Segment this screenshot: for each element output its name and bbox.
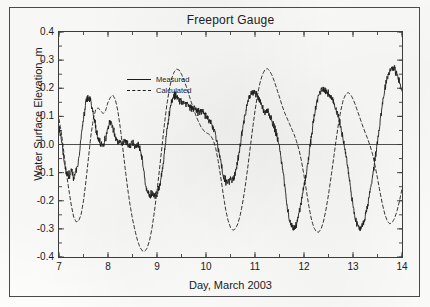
plot-area: Measured Calculated — [58, 31, 403, 258]
x-tick-label: 10 — [191, 261, 221, 272]
y-tick-label: 0.2 — [24, 82, 54, 93]
y-axis-tick-labels: 0.40.30.20.10.0-0.1-0.2-0.3-0.4 — [24, 31, 54, 258]
y-tick-label: 0.0 — [24, 139, 54, 150]
x-tick-label: 8 — [93, 261, 123, 272]
x-tick-label: 9 — [142, 261, 172, 272]
y-tick-label: -0.1 — [24, 167, 54, 178]
y-tick-label: 0.4 — [24, 26, 54, 37]
x-tick-label: 14 — [387, 261, 417, 272]
plot-canvas — [59, 32, 402, 257]
x-axis-label: Day, March 2003 — [58, 279, 403, 291]
legend-item-measured: Measured — [127, 74, 219, 84]
legend-item-calculated: Calculated — [127, 85, 219, 95]
x-tick-label: 13 — [338, 261, 368, 272]
dashed-line-icon — [127, 86, 151, 94]
chart-legend: Measured Calculated — [127, 74, 219, 96]
chart-title: Freeport Gauge — [58, 13, 403, 27]
y-tick-label: -0.3 — [24, 223, 54, 234]
x-tick-label: 11 — [240, 261, 270, 272]
y-tick-label: 0.1 — [24, 110, 54, 121]
x-tick-label: 7 — [44, 261, 74, 272]
legend-label-calculated: Calculated — [151, 86, 191, 95]
figure-root: Freeport Gauge Water Surface Elevation, … — [0, 0, 430, 307]
y-tick-label: 0.3 — [24, 54, 54, 65]
x-tick-label: 12 — [289, 261, 319, 272]
x-axis-tick-labels: 7891011121314 — [58, 261, 403, 275]
y-tick-label: -0.2 — [24, 195, 54, 206]
series-line-measured — [59, 65, 402, 231]
solid-line-icon — [127, 75, 151, 83]
legend-label-measured: Measured — [151, 75, 189, 84]
series-line-calculated — [59, 69, 402, 252]
